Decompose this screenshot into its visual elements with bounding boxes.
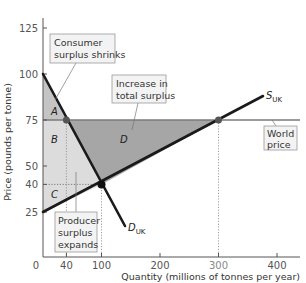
world-price-callout: World price bbox=[264, 126, 297, 150]
demand-world-point bbox=[63, 117, 70, 124]
y-ticks bbox=[43, 28, 47, 212]
y-tick-75: 75 bbox=[25, 115, 38, 126]
x-tick-200: 200 bbox=[150, 260, 169, 271]
svg-text:World: World bbox=[267, 128, 294, 139]
supply-label: SUK bbox=[266, 90, 282, 104]
x-ticks bbox=[66, 253, 277, 257]
svg-text:Producer: Producer bbox=[58, 215, 100, 226]
svg-text:surplus shrinks: surplus shrinks bbox=[54, 49, 126, 60]
x-tick-40: 40 bbox=[60, 260, 73, 271]
region-b-label: B bbox=[51, 134, 58, 145]
x-axis-title: Quantity (millions of tonnes per year) bbox=[121, 271, 300, 282]
x-tick-100: 100 bbox=[92, 260, 111, 271]
region-d-label: D bbox=[120, 134, 128, 145]
x-tick-400: 400 bbox=[267, 260, 286, 271]
consumer-leader bbox=[55, 63, 76, 100]
equilibrium-point bbox=[98, 180, 106, 188]
consumer-surplus-callout: Consumer surplus shrinks bbox=[50, 34, 126, 63]
y-axis-title: Price (pounds per tonne) bbox=[2, 83, 13, 201]
y-tick-40: 40 bbox=[25, 179, 38, 190]
svg-text:Increase in: Increase in bbox=[116, 78, 168, 89]
y-tick-25: 25 bbox=[25, 207, 38, 218]
svg-text:Consumer: Consumer bbox=[54, 37, 103, 48]
demand-label: DUK bbox=[128, 222, 146, 236]
svg-text:price: price bbox=[267, 139, 291, 150]
chart: 125 100 75 50 40 25 0 40 100 200 300 400… bbox=[0, 0, 306, 283]
x-tick-0: 0 bbox=[33, 260, 39, 271]
y-tick-50: 50 bbox=[25, 161, 38, 172]
y-tick-125: 125 bbox=[19, 23, 38, 34]
producer-surplus-callout: Producer surplus expands bbox=[55, 212, 100, 252]
supply-world-point bbox=[215, 117, 222, 124]
x-tick-300: 300 bbox=[209, 260, 228, 271]
world-leader bbox=[272, 120, 276, 126]
region-c-label: C bbox=[51, 189, 58, 200]
increase-total-surplus-callout: Increase in total surplus bbox=[112, 75, 175, 103]
svg-text:surplus: surplus bbox=[58, 227, 93, 238]
svg-text:expands: expands bbox=[58, 239, 98, 250]
region-a-label: A bbox=[50, 106, 58, 117]
svg-text:total surplus: total surplus bbox=[116, 90, 175, 101]
y-tick-100: 100 bbox=[19, 69, 38, 80]
